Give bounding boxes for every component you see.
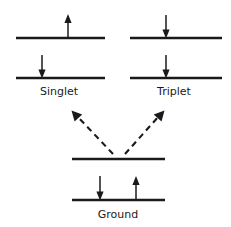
label-ground: Ground bbox=[98, 208, 138, 221]
triplet-upper-spin-down-arrow bbox=[162, 15, 169, 39]
label-singlet: Singlet bbox=[40, 85, 79, 98]
ground-spin-up-head bbox=[132, 176, 139, 185]
diagram-canvas: Singlet Triplet Ground bbox=[0, 0, 231, 227]
excitation-arrow-to-triplet bbox=[125, 111, 165, 155]
ground-spin-down-arrow bbox=[96, 176, 103, 201]
label-triplet: Triplet bbox=[156, 85, 191, 98]
triplet-lower-spin-down-arrow bbox=[162, 55, 169, 79]
singlet-lower-spin-down-arrow bbox=[38, 55, 45, 79]
singlet-upper-spin-up-head bbox=[64, 14, 71, 23]
energy-level-diagram: Singlet Triplet Ground bbox=[0, 0, 231, 227]
singlet-upper-spin-up-arrow bbox=[64, 14, 71, 38]
excitation-arrow-to-singlet bbox=[72, 111, 114, 155]
excitation-arrow-to-triplet-shaft bbox=[125, 116, 159, 154]
excitation-arrow-to-singlet-shaft bbox=[77, 116, 113, 154]
ground-spin-up-arrow bbox=[132, 176, 139, 200]
energy-level-lines bbox=[16, 38, 222, 200]
